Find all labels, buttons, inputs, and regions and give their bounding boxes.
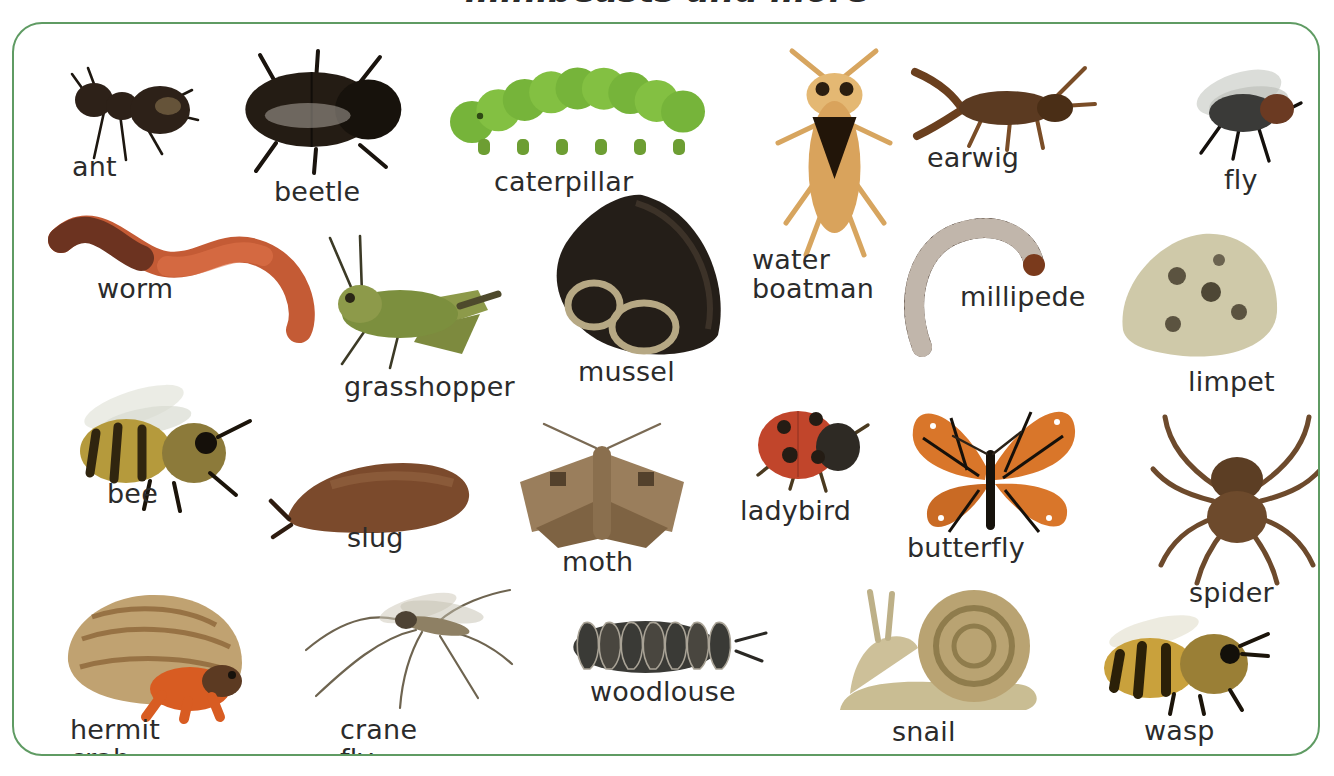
water-boatman-label: water boatman: [752, 245, 874, 303]
limpet-icon: [1107, 220, 1282, 365]
grasshopper-label: grasshopper: [344, 372, 515, 401]
snail-label: snail: [892, 717, 956, 746]
crane-fly-icon: [292, 570, 517, 715]
butterfly-icon: [897, 392, 1077, 542]
ant-label: ant: [72, 152, 117, 181]
hermit-crab-label: hermit crab: [70, 715, 160, 756]
worm-icon: [37, 198, 327, 343]
hermit-crab-icon: [50, 577, 255, 717]
poster-title: minibeasts and more: [0, 0, 1334, 10]
limpet-label: limpet: [1188, 367, 1275, 396]
millipede-icon: [892, 207, 1052, 352]
minibeast-poster-frame: antbeetlecaterpillarwater boatmanearwigf…: [12, 22, 1320, 756]
mussel-icon: [532, 187, 737, 362]
beetle-icon: [220, 47, 415, 172]
worm-label: worm: [97, 274, 173, 303]
bee-label: bee: [107, 479, 158, 508]
snail-icon: [822, 584, 1052, 729]
woodlouse-label: woodlouse: [590, 677, 736, 706]
wasp-label: wasp: [1144, 716, 1215, 745]
mussel-label: mussel: [578, 357, 675, 386]
woodlouse-icon: [560, 607, 750, 687]
spider-icon: [1147, 407, 1320, 577]
grasshopper-icon: [302, 232, 517, 372]
moth-label: moth: [562, 547, 633, 576]
earwig-icon: [907, 50, 1097, 155]
crane-fly-label: crane fly: [340, 715, 417, 756]
butterfly-label: butterfly: [907, 533, 1025, 562]
fly-label: fly: [1224, 165, 1258, 194]
earwig-label: earwig: [927, 143, 1019, 172]
ant-icon: [42, 50, 217, 155]
water-boatman-icon: [772, 47, 897, 257]
millipede-label: millipede: [960, 282, 1086, 311]
ladybird-label: ladybird: [740, 496, 851, 525]
spider-label: spider: [1189, 578, 1274, 607]
ladybird-icon: [742, 397, 862, 492]
fly-icon: [1177, 57, 1307, 157]
poster-title-clip: minibeasts and more: [0, 0, 1334, 20]
moth-icon: [502, 412, 702, 552]
wasp-icon: [1090, 610, 1270, 715]
caterpillar-icon: [454, 52, 709, 167]
slug-label: slug: [347, 523, 404, 552]
